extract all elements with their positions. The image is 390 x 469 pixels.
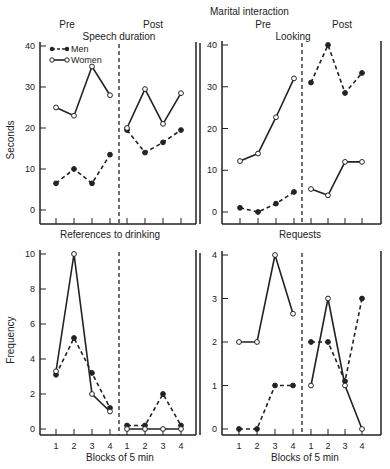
panel-speech-duration: 010203040 [25, 41, 196, 224]
ylabel-seconds: Seconds [5, 121, 16, 160]
men-point [179, 128, 184, 133]
panel-title-speech-duration: Speech duration [83, 31, 156, 42]
x-tick-label: 2 [142, 441, 147, 451]
men-point [54, 181, 59, 186]
y-tick-label: 20 [207, 124, 217, 134]
men-marker-icon [50, 47, 54, 51]
men-point [326, 340, 331, 345]
x-tick-label: 3 [160, 441, 165, 451]
women-point [161, 427, 166, 432]
men-point [360, 296, 365, 301]
men-point [72, 167, 77, 172]
men-point [343, 91, 348, 96]
men-line-pre [56, 155, 110, 184]
women-point [309, 187, 314, 192]
y-tick-label: 2 [30, 389, 35, 399]
women-point [108, 93, 113, 98]
men-point [161, 392, 166, 397]
men-point [274, 201, 279, 206]
x-tick-label: 4 [107, 441, 112, 451]
y-tick-label: 0 [212, 424, 217, 434]
men-point [291, 383, 296, 388]
y-tick-label: 30 [207, 82, 217, 92]
ylabel-frequency: Frequency [5, 316, 16, 363]
women-line-pre [56, 254, 110, 412]
men-point [237, 427, 242, 432]
legend-women: Women [71, 55, 102, 65]
men-point [143, 150, 148, 155]
x-tick-label: 3 [272, 441, 277, 451]
y-tick-label: 1 [212, 381, 217, 391]
y-tick-label: 10 [25, 164, 35, 174]
women-point [360, 427, 365, 432]
women-point [125, 427, 130, 432]
y-tick-label: 0 [212, 207, 217, 217]
phase-label-post-left: Post [143, 19, 163, 30]
women-point [291, 311, 296, 316]
women-point [256, 151, 261, 156]
women-point [274, 115, 279, 120]
men-point [90, 181, 95, 186]
men-line-post [127, 130, 181, 153]
xlabel-left: Blocks of 5 min [86, 452, 154, 463]
phase-label-pre-left: Pre [59, 19, 75, 30]
women-point [72, 252, 77, 257]
men-point [108, 152, 113, 157]
x-tick-label: 1 [236, 441, 241, 451]
panel-references: 024681012341234 [25, 249, 196, 451]
women-point [179, 427, 184, 432]
women-marker-icon [50, 58, 54, 62]
men-point [309, 80, 314, 85]
men-point [273, 383, 278, 388]
women-point [326, 193, 331, 198]
y-tick-label: 3 [212, 294, 217, 304]
y-tick-label: 0 [30, 205, 35, 215]
y-tick-label: 0 [30, 424, 35, 434]
y-tick-label: 20 [25, 123, 35, 133]
figure: Marital interaction Pre Post Pre Post Sp… [0, 0, 390, 469]
men-point [238, 205, 243, 210]
x-tick-label: 1 [53, 441, 58, 451]
women-point [143, 427, 148, 432]
women-line-pre [56, 67, 110, 116]
panel-requests: 0123412341234 [200, 250, 381, 451]
women-point [90, 64, 95, 69]
men-point [161, 140, 166, 145]
y-tick-label: 30 [25, 82, 35, 92]
women-point [90, 392, 95, 397]
women-point [72, 113, 77, 118]
women-line-pre [239, 255, 293, 342]
women-point [343, 160, 348, 165]
panel-title-looking: Looking [275, 31, 310, 42]
women-line-pre [240, 78, 294, 161]
women-point [292, 76, 297, 81]
panel-looking: 010203040 [200, 40, 381, 224]
men-line-post [311, 45, 362, 93]
x-tick-label: 1 [124, 441, 129, 451]
x-tick-label: 1 [308, 441, 313, 451]
x-tick-label: 3 [89, 441, 94, 451]
women-point [326, 296, 331, 301]
women-point [238, 159, 243, 164]
women-line-post [311, 162, 362, 195]
women-point [179, 91, 184, 96]
women-point [237, 340, 242, 345]
men-point [292, 190, 297, 195]
women-point [309, 383, 314, 388]
women-point [54, 369, 59, 374]
women-line-post [311, 299, 362, 430]
y-tick-label: 2 [212, 337, 217, 347]
y-tick-label: 6 [30, 319, 35, 329]
women-point [343, 383, 348, 388]
legend-men: Men [71, 44, 89, 54]
women-line-post [127, 89, 181, 128]
y-tick-label: 8 [30, 284, 35, 294]
men-point [72, 336, 77, 341]
x-tick-label: 4 [178, 441, 183, 451]
women-point [108, 409, 113, 414]
chart-canvas: Marital interaction Pre Post Pre Post Sp… [0, 0, 390, 469]
women-point [161, 122, 166, 127]
men-point [360, 71, 365, 76]
men-line-pre [240, 192, 294, 212]
y-tick-label: 10 [207, 165, 217, 175]
